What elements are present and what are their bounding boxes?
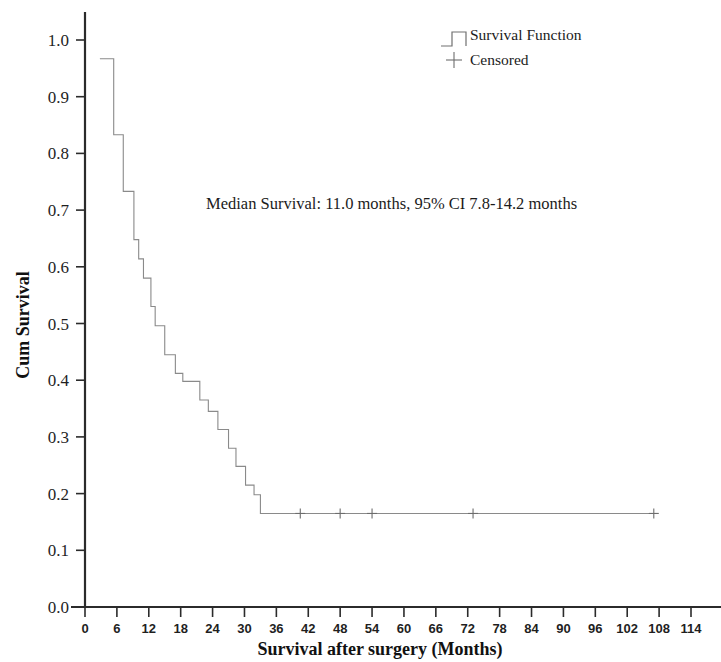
x-axis-tick-label: 48 [333,621,347,636]
chart-background [0,0,721,662]
x-axis-tick-label: 6 [113,621,120,636]
x-axis-tick-label: 18 [173,621,187,636]
x-axis-tick-label: 54 [365,621,380,636]
x-axis-tick-label: 12 [142,621,156,636]
y-axis-tick-label: 0.6 [48,258,69,277]
x-axis-tick-label: 108 [648,621,670,636]
x-axis-tick-label: 24 [205,621,220,636]
x-axis-tick-label: 78 [492,621,506,636]
x-axis-tick-label: 114 [681,621,703,636]
x-axis-tick-label: 36 [269,621,283,636]
y-axis-tick-label: 1.0 [48,31,69,50]
kaplan-meier-plot: 0.00.10.20.30.40.50.60.70.80.91.0 061218… [0,0,721,662]
x-axis-tick-label: 66 [429,621,443,636]
y-axis-title: Cum Survival [13,271,33,379]
x-axis-tick-label: 96 [588,621,602,636]
x-axis-tick-label: 0 [81,621,88,636]
x-axis-tick-label: 102 [616,621,638,636]
legend-label-survival-function: Survival Function [470,26,582,43]
x-axis-tick-label: 90 [556,621,570,636]
x-axis-tick-label: 84 [524,621,539,636]
y-axis-tick-label: 0.4 [48,371,70,390]
y-axis-tick-label: 0.3 [48,428,69,447]
x-axis-tick-label: 30 [237,621,251,636]
x-axis-tick-label: 60 [397,621,411,636]
y-axis-tick-label: 0.2 [48,485,69,504]
y-axis-tick-label: 0.5 [48,315,69,334]
y-axis-tick-label: 0.8 [48,144,69,163]
median-survival-annotation: Median Survival: 11.0 months, 95% CI 7.8… [206,194,577,213]
legend-label-censored: Censored [470,51,529,68]
x-axis-tick-label: 42 [301,621,315,636]
x-axis-tick-label: 72 [461,621,475,636]
y-axis-tick-label: 0.7 [48,201,70,220]
y-axis-tick-label: 0.1 [48,541,69,560]
y-axis-tick-label: 0.0 [48,598,69,617]
x-axis-title: Survival after surgery (Months) [257,639,502,660]
y-axis-tick-label: 0.9 [48,88,69,107]
survival-chart-figure: 0.00.10.20.30.40.50.60.70.80.91.0 061218… [0,0,721,662]
